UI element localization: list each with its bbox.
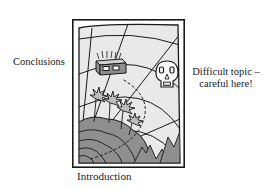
- treasure-map: [72, 19, 185, 168]
- difficult-topic-label: Difficult topic – careful here!: [186, 66, 266, 90]
- conclusions-label: Conclusions: [13, 56, 65, 68]
- introduction-label: Introduction: [77, 170, 131, 182]
- difficult-topic-line-2: careful here!: [186, 78, 266, 90]
- difficult-topic-line-1: Difficult topic –: [186, 66, 266, 78]
